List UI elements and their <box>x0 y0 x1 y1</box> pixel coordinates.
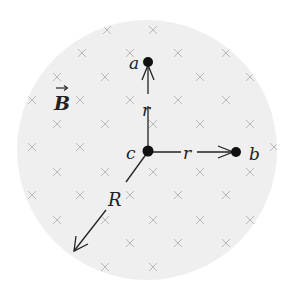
label-c: c <box>126 143 136 163</box>
label-a: a <box>129 53 139 73</box>
magnetic-field-diagram: a b c r r R B <box>0 0 283 287</box>
label-R: R <box>107 189 122 210</box>
point-a <box>143 57 153 67</box>
label-r-horizontal: r <box>183 143 192 163</box>
label-B: B <box>53 92 70 114</box>
label-b: b <box>249 144 260 164</box>
label-r-vertical: r <box>142 100 151 120</box>
diagram-canvas: a b c r r R B <box>0 0 283 287</box>
point-c <box>143 146 154 157</box>
point-b <box>231 147 241 157</box>
